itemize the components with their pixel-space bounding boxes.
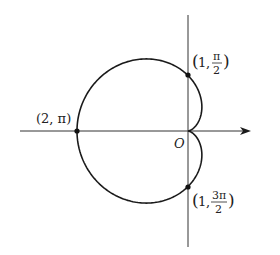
svg-text:2: 2 [213, 64, 220, 77]
point-label-1-pi-over-2: ( 1 , π 2 ) [192, 50, 230, 77]
svg-text:,: , [206, 194, 210, 209]
point-1-3pi-over-2 [185, 184, 190, 189]
origin-label: O [174, 136, 185, 151]
point-2-pi [74, 128, 79, 133]
cardioid-diagram: O (2, π) ( 1 , π 2 ) ( 1 , 3π 2 ) [0, 0, 280, 255]
point-1-pi-over-2 [185, 72, 190, 77]
svg-text:): ) [228, 190, 235, 210]
svg-text:,: , [206, 55, 210, 70]
svg-text:3π: 3π [212, 189, 226, 202]
svg-text:): ) [223, 51, 230, 71]
point-label-2-pi: (2, π) [36, 111, 71, 126]
svg-text:π: π [213, 50, 220, 63]
point-label-1-3pi-over-2: ( 1 , 3π 2 ) [192, 189, 235, 216]
svg-text:2: 2 [215, 203, 222, 216]
